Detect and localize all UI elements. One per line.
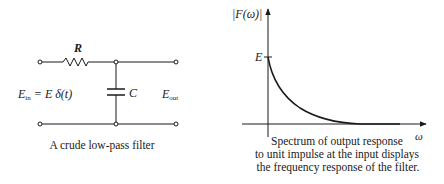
capacitor-label: C — [129, 86, 138, 100]
output-terminal-top — [174, 60, 178, 64]
graph-caption-line-2: to unit impulse at the input displays — [255, 148, 420, 161]
circuit-caption: A crude low-pass filter — [49, 139, 154, 152]
input-terminal-bottom — [38, 122, 42, 126]
input-expression: = E δ(t) — [34, 87, 72, 101]
x-axis-label: ω — [415, 130, 423, 142]
input-voltage-label: Ein= E δ(t) — [17, 87, 72, 102]
response-curve — [268, 57, 400, 124]
output-voltage-label: Eout — [161, 87, 178, 102]
frequency-response-graph — [242, 9, 426, 137]
resistor-label: R — [73, 41, 82, 55]
graph-caption-line-1: Spectrum of output response — [271, 135, 403, 148]
graph-caption-line-3: the frequency response of the filter. — [257, 161, 420, 174]
junction-node-bottom — [114, 122, 118, 126]
y-tick-label: E — [254, 50, 263, 64]
input-label-sub: in — [25, 94, 31, 102]
junction-node-top — [114, 60, 118, 64]
figure: R C Ein= E δ(t) Eout A crude low-pass fi… — [0, 0, 444, 184]
resistor-icon — [63, 58, 88, 66]
output-terminal-bottom — [174, 122, 178, 126]
output-label-sub: out — [169, 94, 178, 102]
input-terminal-top — [38, 60, 42, 64]
y-axis-label: |F(ω)| — [232, 7, 262, 21]
